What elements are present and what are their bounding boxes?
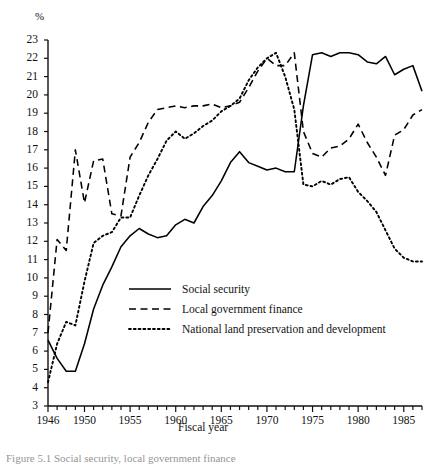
y-tick-7: 7 xyxy=(12,326,38,338)
y-tick-22: 22 xyxy=(12,51,38,63)
y-tick-15: 15 xyxy=(12,179,38,191)
y-tick-21: 21 xyxy=(12,70,38,82)
x-tick-1955: 1955 xyxy=(110,414,150,426)
y-tick-6: 6 xyxy=(12,344,38,356)
x-tick-1946: 1946 xyxy=(28,414,68,426)
legend-swatch-dotted xyxy=(128,323,172,335)
y-tick-3: 3 xyxy=(12,399,38,411)
x-tick-1980: 1980 xyxy=(338,414,378,426)
x-tick-1950: 1950 xyxy=(64,414,104,426)
y-tick-13: 13 xyxy=(12,216,38,228)
y-tick-19: 19 xyxy=(12,106,38,118)
chart-legend: Social securityLocal government financeN… xyxy=(128,279,398,339)
x-tick-1985: 1985 xyxy=(384,414,424,426)
legend-label: National land preservation and developme… xyxy=(182,323,386,335)
y-tick-4: 4 xyxy=(12,381,38,393)
axis-lines xyxy=(48,40,422,406)
y-tick-16: 16 xyxy=(12,161,38,173)
y-tick-18: 18 xyxy=(12,125,38,137)
legend-item-local-government-finance: Local government finance xyxy=(128,299,398,319)
y-tick-5: 5 xyxy=(12,362,38,374)
x-tick-1970: 1970 xyxy=(247,414,287,426)
x-axis-title: Fiscal year xyxy=(178,421,228,433)
figure-container: % 34567891011121314151617181920212223 19… xyxy=(0,0,434,465)
legend-swatch-dashed xyxy=(128,303,172,315)
line-chart-plot xyxy=(0,0,434,465)
y-tick-11: 11 xyxy=(12,253,38,265)
y-tick-23: 23 xyxy=(12,33,38,45)
y-tick-17: 17 xyxy=(12,143,38,155)
axis-ticks xyxy=(44,40,422,412)
legend-item-national-land-preservation-and-development: National land preservation and developme… xyxy=(128,319,398,339)
y-tick-9: 9 xyxy=(12,289,38,301)
legend-swatch-solid xyxy=(128,283,172,295)
y-tick-12: 12 xyxy=(12,234,38,246)
legend-item-social-security: Social security xyxy=(128,279,398,299)
y-tick-20: 20 xyxy=(12,88,38,100)
legend-label: Local government finance xyxy=(182,303,303,315)
figure-caption: Figure 5.1 Social security, local govern… xyxy=(6,452,236,464)
legend-label: Social security xyxy=(182,283,250,295)
y-tick-14: 14 xyxy=(12,198,38,210)
x-tick-1975: 1975 xyxy=(293,414,333,426)
y-tick-8: 8 xyxy=(12,308,38,320)
y-tick-10: 10 xyxy=(12,271,38,283)
